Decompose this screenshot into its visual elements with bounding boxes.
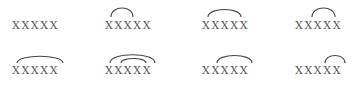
group-4: XXXXX <box>295 0 355 31</box>
x-sequence: XXXXX <box>295 20 355 31</box>
x-sequence: XXXXX <box>202 65 262 76</box>
x-sequence: XXXXX <box>202 20 262 31</box>
group-5: XXXXX <box>12 36 72 76</box>
x-sequence: XXXXX <box>295 65 355 76</box>
arc-1-4 <box>208 10 241 18</box>
arc-4-5 <box>325 56 345 64</box>
arc-3-4 <box>312 8 335 17</box>
group-1: XXXXX <box>12 0 72 31</box>
arc-1-2 <box>111 8 133 17</box>
x-sequence: XXXXX <box>12 20 72 31</box>
x-sequence: XXXXX <box>105 20 165 31</box>
group-3: XXXXX <box>202 0 262 31</box>
group-7: XXXXX <box>202 36 262 76</box>
arc-1-5 <box>17 56 63 63</box>
x-sequence: XXXXX <box>12 65 72 76</box>
x-sequence: XXXXX <box>105 65 165 76</box>
group-8: XXXXX <box>295 36 355 76</box>
arc-2-5 <box>217 56 252 64</box>
arc-diagram: XXXXX XXXXX XXXXX XXXXX XXXXX XXXXX <box>0 0 364 89</box>
group-2: XXXXX <box>105 0 165 31</box>
group-6: XXXXX <box>105 36 165 76</box>
arc-2-4 <box>121 59 146 64</box>
